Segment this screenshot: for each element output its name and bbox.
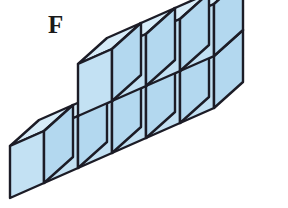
cube-group: [10, 0, 243, 198]
figure-label: F: [48, 12, 64, 37]
cube-figure: F: [0, 0, 288, 208]
isometric-cube-drawing: [0, 0, 288, 208]
